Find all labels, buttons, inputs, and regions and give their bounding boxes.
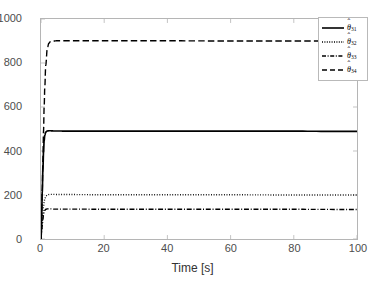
- series-theta-hat-32: [41, 194, 357, 239]
- legend-label: ˆθ34: [347, 65, 356, 76]
- legend-item[interactable]: ˆθ33: [321, 49, 365, 63]
- legend-item[interactable]: ˆθ31: [321, 21, 365, 35]
- hat-accent: ˆ: [348, 32, 351, 41]
- legend-item[interactable]: ˆθ32: [321, 35, 365, 49]
- y-tick-label: 200: [4, 190, 22, 201]
- y-tick-label: 400: [4, 146, 22, 157]
- legend-subscript: 32: [351, 40, 357, 46]
- hat-accent: ˆ: [348, 18, 351, 27]
- y-tick-label: 0: [16, 234, 22, 245]
- x-tick-label: 0: [37, 243, 43, 254]
- legend-subscript: 34: [351, 68, 357, 74]
- legend-swatch-dotted: [321, 37, 345, 47]
- series-theta-hat-31: [41, 131, 357, 239]
- legend-swatch-dashdot: [321, 51, 345, 61]
- x-tick-label: 60: [225, 243, 237, 254]
- figure: 1000 800 600 400 200 0 0 20 40 60 80 100…: [0, 0, 385, 286]
- y-tick-label: 800: [4, 57, 22, 68]
- series-theta-hat-33: [41, 209, 357, 239]
- legend-swatch-dashed: [321, 65, 345, 75]
- x-axis-label: Time [s]: [0, 261, 385, 275]
- x-tick-label: 100: [349, 243, 367, 254]
- hat-accent: ˆ: [348, 60, 351, 69]
- chart-canvas: [41, 19, 357, 239]
- x-tick-label: 20: [97, 243, 109, 254]
- y-tick-label: 1000: [0, 13, 22, 24]
- legend-subscript: 31: [351, 26, 357, 32]
- legend-item[interactable]: ˆθ34: [321, 63, 365, 77]
- plot-area: [40, 18, 358, 240]
- legend-subscript: 33: [351, 54, 357, 60]
- x-tick-label: 40: [161, 243, 173, 254]
- legend-swatch-solid: [321, 23, 345, 33]
- y-tick-label: 600: [4, 101, 22, 112]
- x-tick-label: 80: [288, 243, 300, 254]
- legend[interactable]: ˆθ31 ˆθ32 ˆθ33 ˆθ34: [318, 17, 368, 81]
- hat-accent: ˆ: [348, 46, 351, 55]
